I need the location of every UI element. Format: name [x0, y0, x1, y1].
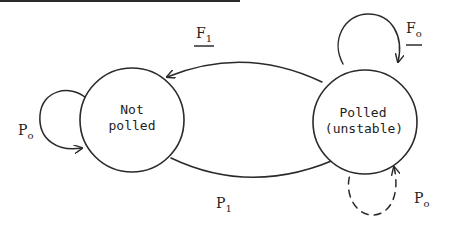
label-p1: P1: [216, 195, 232, 214]
node-polled-unstable-line1: Polled: [340, 105, 387, 120]
arrow-p0-left: [40, 91, 86, 149]
node-not-polled-line2: polled: [109, 118, 156, 133]
arrow-p1: [171, 155, 345, 177]
edge-p0-left: Po: [18, 91, 86, 149]
state-diagram: F1 P1 Po Fo Po Not polled Polled (unstab…: [0, 0, 450, 235]
label-p0-right: Po: [414, 190, 429, 209]
label-f1: F1: [196, 25, 212, 44]
edge-p1: P1: [171, 155, 345, 214]
arrow-f1: [167, 62, 322, 82]
edge-f1: F1: [167, 25, 322, 82]
node-not-polled-line1: Not: [120, 102, 143, 117]
edge-f0: Fo: [338, 14, 422, 64]
label-p0-left: Po: [18, 122, 33, 141]
label-f0: Fo: [406, 20, 422, 39]
node-polled-unstable-line2: (unstable): [325, 121, 403, 136]
node-polled-unstable: Polled (unstable): [313, 70, 417, 174]
arrow-f0: [338, 14, 399, 64]
node-not-polled: Not polled: [80, 68, 184, 172]
